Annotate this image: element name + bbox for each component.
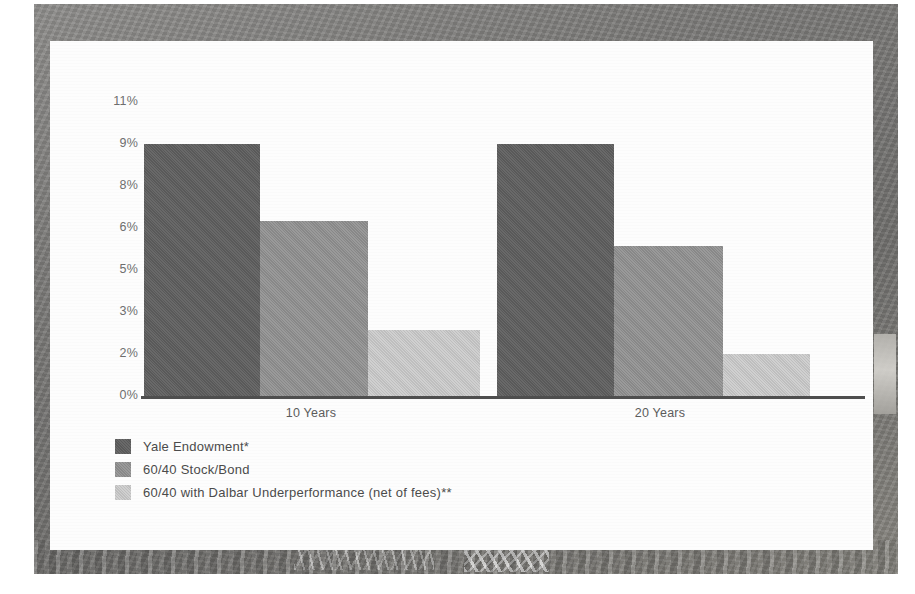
- bar-20y-6040-dalbar[interactable]: [723, 354, 810, 396]
- x-tick-10-years: 10 Years: [236, 406, 386, 420]
- bar-10y-6040-dalbar[interactable]: [368, 330, 480, 396]
- bar-10y-6040-stock-bond[interactable]: [260, 221, 368, 396]
- legend-label-dalbar: 60/40 with Dalbar Underperformance (net …: [143, 485, 452, 500]
- bar-10y-yale-endowment[interactable]: [144, 144, 260, 396]
- chart-legend: Yale Endowment* 60/40 Stock/Bond 60/40 w…: [115, 435, 815, 504]
- legend-label-6040: 60/40 Stock/Bond: [143, 462, 250, 477]
- legend-swatch-icon-yale: [115, 439, 131, 454]
- legend-label-yale: Yale Endowment*: [143, 439, 249, 454]
- legend-item-yale-endowment[interactable]: Yale Endowment*: [115, 435, 815, 458]
- x-tick-20-years: 20 Years: [585, 406, 735, 420]
- screenshot-root: 11% 9% 8% 6% 5% 3% 2% 0% 10 Year: [0, 0, 915, 594]
- bar-20y-6040-stock-bond[interactable]: [614, 246, 723, 396]
- frame-texture-right: [874, 334, 896, 414]
- legend-item-6040-dalbar[interactable]: 60/40 with Dalbar Underperformance (net …: [115, 481, 815, 504]
- chart-card: 11% 9% 8% 6% 5% 3% 2% 0% 10 Year: [50, 41, 873, 550]
- legend-swatch-icon-6040: [115, 462, 131, 477]
- bar-20y-yale-endowment[interactable]: [497, 144, 614, 396]
- x-axis-baseline: [141, 396, 865, 399]
- legend-swatch-icon-dalbar: [115, 485, 131, 500]
- legend-item-6040-stock-bond[interactable]: 60/40 Stock/Bond: [115, 458, 815, 481]
